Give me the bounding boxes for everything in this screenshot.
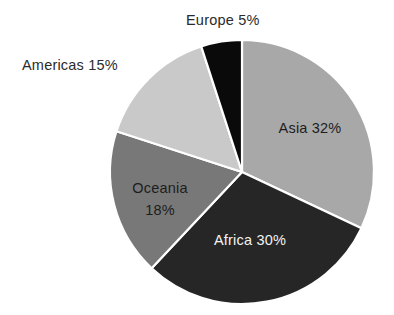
pie-label-europe: Europe 5% — [186, 12, 260, 28]
pie-chart: Asia 32% Africa 30% Oceania 18% Europe 5… — [0, 0, 394, 315]
pie-label-africa: Africa 30% — [214, 232, 286, 248]
pie-label-asia: Asia 32% — [279, 120, 342, 136]
pie-label-oceania-name: Oceania — [132, 180, 188, 196]
pie-label-americas: Americas 15% — [22, 57, 118, 73]
pie-chart-canvas: Asia 32% Africa 30% Oceania 18% — [0, 0, 394, 315]
pie-label-oceania-value: 18% — [145, 202, 175, 218]
